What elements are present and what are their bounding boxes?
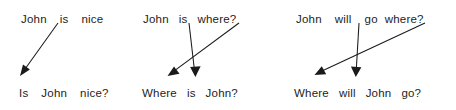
g3-arrow-aux-icon bbox=[351, 23, 362, 77]
word: go? bbox=[401, 86, 421, 100]
word: nice bbox=[81, 12, 103, 26]
word: where? bbox=[385, 12, 424, 26]
word: Where bbox=[142, 86, 177, 100]
g2-arrow-wh-icon bbox=[168, 23, 240, 76]
g2-arrow-aux-icon bbox=[189, 23, 201, 77]
group-1-source-sentence: Johnisnice bbox=[21, 12, 103, 26]
group-2-source-sentence: Johniswhere? bbox=[143, 12, 236, 26]
word: will bbox=[339, 86, 356, 100]
word: is bbox=[179, 12, 188, 26]
word: is bbox=[187, 86, 196, 100]
word: nice? bbox=[80, 86, 109, 100]
word: John bbox=[296, 12, 322, 26]
word: go bbox=[365, 12, 378, 26]
group-1-target-sentence: IsJohnnice? bbox=[19, 86, 109, 100]
word: John bbox=[21, 12, 47, 26]
movement-diagram: Johnisnice IsJohnnice? Johniswhere? Wher… bbox=[0, 0, 456, 110]
g3-arrow-wh-icon bbox=[315, 23, 426, 75]
word: Is bbox=[19, 86, 28, 100]
group-3-target-sentence: WherewillJohngo? bbox=[294, 86, 421, 100]
group-3-source-sentence: Johnwillgowhere? bbox=[296, 12, 424, 26]
group-2-target-sentence: WhereisJohn? bbox=[142, 86, 238, 100]
word: John bbox=[143, 12, 169, 26]
word: Where bbox=[294, 86, 329, 100]
word: is bbox=[60, 12, 69, 26]
word: will bbox=[335, 12, 352, 26]
g1-arrow-aux-icon bbox=[20, 23, 58, 76]
word: where? bbox=[197, 12, 236, 26]
word: John bbox=[41, 86, 67, 100]
word: John bbox=[366, 86, 392, 100]
word: John? bbox=[206, 86, 238, 100]
